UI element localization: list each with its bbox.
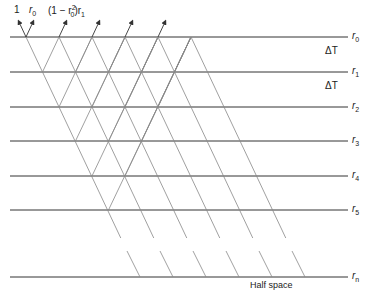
up-ray xyxy=(109,37,192,210)
interface-label-4: r4 xyxy=(352,169,359,182)
down-ray-bottom xyxy=(259,251,272,277)
interface-label-0: r0 xyxy=(352,30,359,43)
reflected-arrow xyxy=(59,22,66,37)
reflected-arrow xyxy=(92,22,99,37)
lattice-svg xyxy=(0,0,372,301)
interface-label-n: rn xyxy=(352,270,359,283)
reflected-arrow xyxy=(26,22,33,37)
transmit-sub2: 1 xyxy=(81,11,85,18)
transmit-prefix: (1 − r xyxy=(48,5,72,16)
r-sub: 0 xyxy=(32,10,36,17)
transmission-label: (1 − r20)r1 xyxy=(48,4,85,18)
incident-arrow xyxy=(19,22,26,37)
up-ray xyxy=(43,37,60,72)
interface-label-3: r3 xyxy=(352,134,359,147)
interface-label-5: r5 xyxy=(352,203,359,216)
down-ray-bottom xyxy=(226,251,239,277)
interface-label-2: r2 xyxy=(352,100,359,113)
incident-label: 1 xyxy=(14,4,20,15)
down-ray-bottom xyxy=(193,251,206,277)
delta-t-label-2: ΔT xyxy=(325,80,338,91)
down-ray-bottom xyxy=(160,251,173,277)
reflected-arrow xyxy=(158,22,165,37)
down-ray-bottom xyxy=(292,251,305,277)
interface-label-1: r1 xyxy=(352,65,359,78)
reflection-r0-label: r0 xyxy=(29,4,36,17)
half-space-label: Half space xyxy=(250,280,293,290)
delta-t-label-1: ΔT xyxy=(325,45,338,56)
down-ray-bottom xyxy=(127,251,140,277)
reflected-arrow xyxy=(125,22,132,37)
diagram-canvas: 1 r0 (1 − r20)r1 r0r1r2r3r4r5rn ΔT ΔT Ha… xyxy=(0,0,372,301)
